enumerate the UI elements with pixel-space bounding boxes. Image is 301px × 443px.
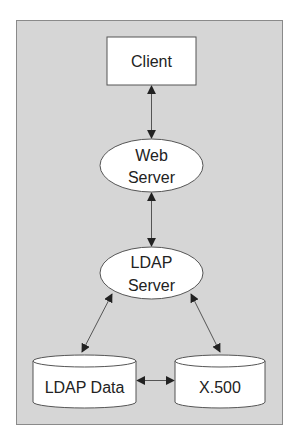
web-server-label-line1: Web [135, 147, 168, 164]
edge-ldapserver-ldapdata [82, 294, 112, 352]
ldap-data-label: LDAP Data [45, 379, 125, 396]
node-ldap-server: LDAP Server [100, 247, 203, 299]
client-label: Client [131, 53, 172, 70]
node-client: Client [107, 37, 196, 85]
edge-ldapserver-x500 [191, 294, 220, 352]
node-ldap-data: LDAP Data [33, 355, 136, 408]
x500-label: X.500 [199, 379, 241, 396]
node-web-server: Web Server [100, 139, 203, 192]
ldap-server-label-line1: LDAP [131, 254, 173, 271]
diagram-canvas: Client Web Server LDAP Server LDAP Data … [0, 0, 301, 443]
node-x500: X.500 [175, 355, 265, 408]
ldap-server-label-line2: Server [128, 277, 176, 294]
web-server-label-line2: Server [128, 169, 176, 186]
